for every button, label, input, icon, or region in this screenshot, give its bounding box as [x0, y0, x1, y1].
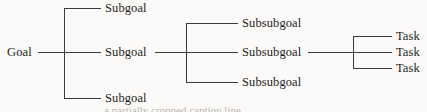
- node-subgoal-2: Subgoal: [105, 46, 147, 59]
- clipped-caption-fragment: a partially cropped caption line: [104, 105, 354, 112]
- node-task-2: Task: [396, 46, 420, 59]
- node-subsubgoal-1: Subsubgoal: [242, 17, 301, 30]
- node-subgoal-3: Subgoal: [105, 92, 147, 105]
- goal-decomposition-diagram: Goal Subgoal Subgoal Subgoal Subsubgoal …: [0, 0, 427, 112]
- node-task-3: Task: [396, 62, 420, 75]
- node-subgoal-1: Subgoal: [105, 2, 147, 15]
- tree-connector-lines: [0, 0, 427, 112]
- node-subsubgoal-3: Subsubgoal: [242, 76, 301, 89]
- node-subsubgoal-2: Subsubgoal: [242, 46, 301, 59]
- node-task-1: Task: [396, 30, 420, 43]
- node-goal: Goal: [7, 46, 32, 59]
